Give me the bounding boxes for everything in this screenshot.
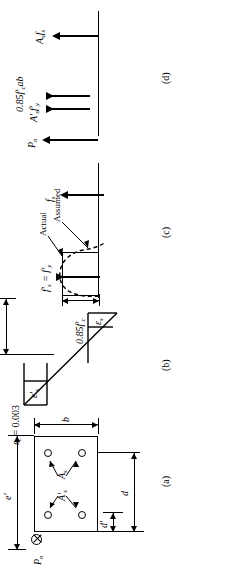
figure-canvas: Pn e′ <box>0 0 251 575</box>
c-dim-label: c <box>0 327 1 331</box>
tens-steel-strain-label: εs <box>92 318 104 325</box>
engineering-figure: Pn e′ <box>0 0 251 575</box>
concrete-stress-label: 0.85f′c <box>74 319 86 345</box>
tens-steel-force-label: Asfs <box>34 30 46 44</box>
concrete-strain-label: εc = 0.003 <box>10 405 22 445</box>
concrete-force-label: 0.85f′cab <box>14 77 26 113</box>
d-prime-arrow-left <box>110 526 116 532</box>
d-prime-arrow-right <box>110 513 116 519</box>
d-arrow-right <box>131 453 137 459</box>
panel-a-leaders <box>0 423 251 575</box>
comp-steel-strain-label: ε′s <box>28 389 40 398</box>
panel-b-strain-diagram: εc = 0.003 ε′s εs a c (b) <box>0 308 251 423</box>
d-label: d <box>119 491 130 496</box>
panel-c-stress-diagram: 0.85f′c f′s = f′y Actual Assumed fs <box>0 158 251 308</box>
tens-steel-stress-label: fs <box>44 197 56 202</box>
panel-c-label: (c) <box>160 227 171 238</box>
tens-steel-area-label: As <box>56 470 68 479</box>
panel-d-label: (d) <box>160 72 171 84</box>
d-prime-label: d′ <box>98 521 109 528</box>
panel-a-label: (a) <box>160 476 171 487</box>
panel-d-force-diagram: Pn A′sf′y 0.85f′cab Asfs (d) <box>0 0 251 158</box>
strain-diagram-geometry <box>0 308 251 423</box>
comp-steel-force-label: A′sf′y <box>28 103 40 122</box>
b-dim-line <box>34 424 98 425</box>
d-arrow-left <box>131 526 137 532</box>
d-extension-left <box>98 531 144 532</box>
pn-force-label: Pn <box>26 138 38 148</box>
actual-curve-label: Actual <box>38 212 48 236</box>
panel-a-cross-section: Pn e′ <box>0 423 251 575</box>
panel-d-baseline <box>98 11 99 136</box>
panel-b-label: (b) <box>160 359 171 371</box>
c-arrow-left <box>3 349 9 355</box>
comp-steel-area-label: A′s <box>56 490 68 501</box>
d-dim-line <box>134 453 135 532</box>
